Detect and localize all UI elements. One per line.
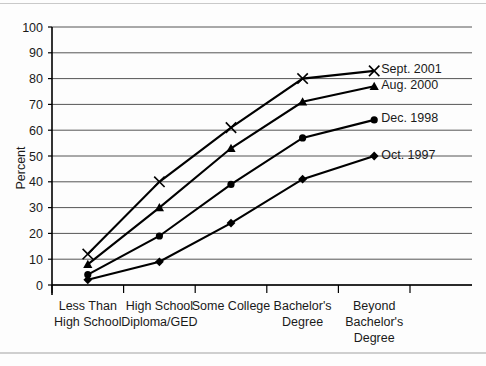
x-axis-category-label: High SchoolDiploma/GED <box>121 299 197 329</box>
line-chart-svg: 0102030405060708090100 Sept. 2001Aug. 20… <box>0 0 486 366</box>
y-axis-tick-label: 20 <box>29 227 43 241</box>
y-axis-tick-label: 70 <box>29 98 43 112</box>
x-axis-category-label: Some College <box>192 299 271 313</box>
y-axis-tick-label: 60 <box>29 124 43 138</box>
data-point-marker-circle <box>299 134 306 141</box>
data-point-marker-x <box>83 249 93 259</box>
x-axis-category-label: Bachelor'sDegree <box>274 299 332 329</box>
y-axis-tick-label: 10 <box>29 253 43 267</box>
y-axis-tick-label: 100 <box>22 21 43 35</box>
data-point-marker-triangle <box>226 144 235 152</box>
y-axis-tick-label: 40 <box>29 175 43 189</box>
x-axis-ticks-group <box>52 285 410 293</box>
data-point-marker-triangle <box>370 82 379 90</box>
y-axis-tick-label: 0 <box>36 279 43 293</box>
x-axis-category-label: BeyondBachelor'sDegree <box>345 299 403 345</box>
series-line <box>88 120 374 275</box>
data-point-marker-diamond <box>370 152 379 161</box>
series-labels-group: Sept. 2001Aug. 2000Dec. 1998Oct. 1997 <box>381 62 442 161</box>
series-label: Aug. 2000 <box>381 78 438 92</box>
data-point-marker-circle <box>227 181 234 188</box>
series-line <box>88 156 374 280</box>
series-line <box>88 86 374 264</box>
y-axis-title: Percent <box>14 146 28 190</box>
series-label: Sept. 2001 <box>381 62 442 76</box>
series-label: Dec. 1998 <box>381 111 438 125</box>
series-label: Oct. 1997 <box>381 148 435 162</box>
chart-figure: 0102030405060708090100 Sept. 2001Aug. 20… <box>0 0 486 366</box>
data-point-marker-circle <box>371 116 378 123</box>
data-series-group <box>83 66 380 285</box>
x-axis-category-label: Less ThanHigh School <box>54 299 121 329</box>
data-point-marker-x <box>226 122 236 132</box>
y-axis-tick-label: 30 <box>29 201 43 215</box>
y-axis-tick-label: 80 <box>29 72 43 86</box>
data-point-marker-diamond <box>83 275 92 284</box>
data-point-marker-circle <box>156 232 163 239</box>
category-labels-group: Less ThanHigh SchoolHigh SchoolDiploma/G… <box>54 299 403 345</box>
y-axis-tick-label: 50 <box>29 150 43 164</box>
y-axis-tick-label: 90 <box>29 46 43 60</box>
